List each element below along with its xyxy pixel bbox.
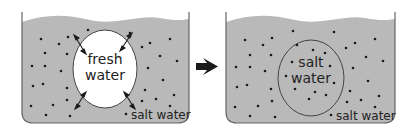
osmosis-diagram: fresh water salt water salt w	[0, 0, 412, 131]
left-salt-water-label: salt water	[131, 108, 191, 122]
fresh-water-label-line1: fresh	[87, 51, 122, 67]
right-arrow-icon	[196, 58, 218, 75]
right-salt-water-label: salt water	[336, 109, 396, 123]
salt-water-inner-label-line2: water	[291, 70, 331, 86]
fresh-water-label-line2: water	[85, 67, 125, 83]
right-beaker: salt water salt water	[226, 12, 396, 123]
left-beaker: fresh water salt water	[22, 12, 191, 123]
salt-water-inner-label-line1: salt	[298, 54, 324, 70]
